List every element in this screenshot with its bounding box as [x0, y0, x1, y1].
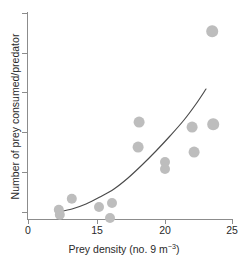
x-axis-title-exponent: −3 — [168, 242, 176, 251]
data-point — [187, 122, 198, 133]
data-point — [133, 142, 144, 153]
data-point — [94, 202, 104, 212]
plot-area — [0, 0, 248, 264]
fit-curve — [0, 0, 248, 264]
x-axis-title: Prey density (no. 9 m−3) — [0, 243, 248, 256]
y-axis-title: Number of prey consumed/predator — [9, 7, 22, 227]
data-point — [105, 213, 115, 223]
data-point — [207, 118, 219, 130]
scatter-plot-figure: 0152025 Prey density (no. 9 m−3) Number … — [0, 0, 248, 264]
data-point — [160, 164, 170, 174]
data-point — [107, 198, 117, 208]
data-point — [134, 117, 145, 128]
data-point — [206, 25, 218, 37]
data-point — [189, 147, 200, 158]
